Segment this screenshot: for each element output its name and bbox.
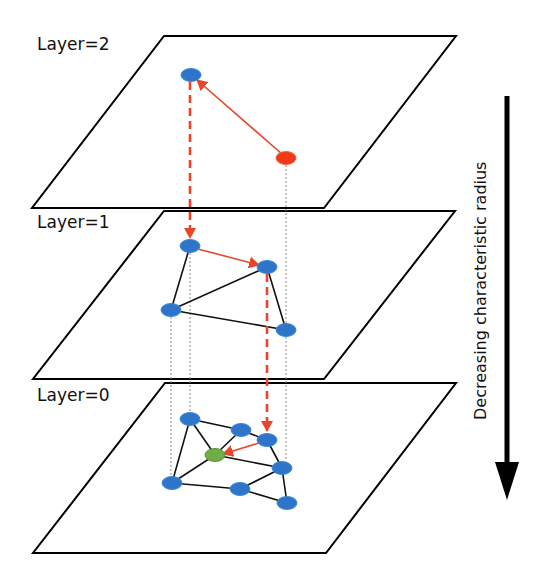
axis-arrowhead-icon (495, 462, 519, 500)
layer-0-plane (33, 383, 456, 553)
graph-node (257, 434, 277, 447)
graph-node (231, 424, 251, 437)
graph-node (230, 483, 250, 496)
layer-0-label: Layer=0 (37, 385, 109, 405)
layer-2-plane (32, 36, 456, 208)
layer-planes (32, 36, 456, 553)
layer-2-label: Layer=2 (37, 34, 109, 54)
query-node (276, 152, 296, 165)
graph-node (277, 497, 297, 510)
graph-node (181, 69, 201, 82)
graph-node (161, 304, 181, 317)
radius-axis-arrow (495, 96, 519, 500)
graph-node (162, 477, 182, 490)
graph-node (180, 413, 200, 426)
graph-node (276, 324, 296, 337)
layer-1-label: Layer=1 (37, 212, 109, 232)
nearest-neighbor-node (205, 449, 225, 462)
hnsw-diagram (0, 0, 543, 573)
graph-node (257, 261, 277, 274)
graph-node (180, 240, 200, 253)
axis-label-decreasing-radius: Decreasing characteristic radius (471, 162, 490, 420)
layer-1-plane (33, 211, 455, 379)
graph-node (272, 462, 292, 475)
